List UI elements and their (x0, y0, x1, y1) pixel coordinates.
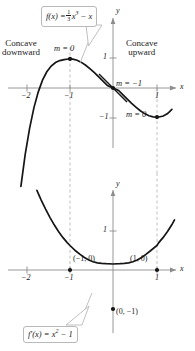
y-axis-arrow-top (111, 18, 116, 24)
callout-fprime-exponent: 2 (55, 328, 58, 334)
callout-fprime-bottom: f′(x) = x2 − 1 (23, 326, 78, 343)
y-axis-label-top: y (116, 7, 120, 15)
x-tick-label-pos1-top: 1 (155, 92, 159, 100)
fraction-denominator: 3 (66, 16, 71, 23)
curve-cubic (21, 59, 172, 186)
x-tick-label-neg2-top: −2 (21, 92, 30, 100)
y-axis-arrow-bottom (111, 190, 116, 196)
callout-fx-fraction: 13 (66, 9, 71, 23)
label-slope-inflection: m = −1 (116, 79, 142, 88)
concave-downward-line2: downward (2, 47, 40, 57)
fraction-numerator: 1 (66, 9, 71, 16)
x-tick-label-neg2-bottom: −2 (21, 274, 30, 282)
point-vertex (111, 307, 115, 311)
label-slope-min: m = 0 (126, 110, 146, 119)
label-point-neg1-0: (−1, 0) (73, 255, 95, 263)
y-axis-label-bottom: y (116, 180, 120, 188)
label-concave-upward: Concave upward (126, 39, 158, 58)
point-local-min (155, 115, 159, 119)
label-concave-downward: Concave downward (2, 39, 40, 58)
label-point-pos1-0: (1, 0) (130, 255, 147, 263)
callout-fx-exponent: 3 (75, 10, 78, 16)
callout-fprime-lhs: f′(x) = x (28, 329, 55, 339)
point-root-pos1 (155, 268, 159, 272)
point-root-neg1 (68, 268, 72, 272)
x-axis-label-bottom: x (180, 265, 184, 273)
x-axis-arrow-bottom (170, 268, 176, 273)
x-tick-label-neg1-bottom: −1 (64, 274, 73, 282)
x-axis-label-top: x (180, 83, 184, 91)
callout-fx-top: f(x) =13x3 − x (41, 6, 97, 27)
y-tick-label-pos1-top: 1 (103, 53, 107, 61)
callout-fx-lhs: f(x) = (46, 11, 66, 21)
calculus-figure: f(x) =13x3 − x y x −2 −1 1 1 −1 Concave … (0, 0, 195, 351)
callout-tail-bottom (66, 306, 89, 325)
concave-upward-line2: upward (128, 47, 155, 57)
x-tick-label-neg1-top: −1 (64, 92, 73, 100)
point-local-max (68, 57, 72, 61)
label-point-0-neg1: (0, −1) (116, 308, 138, 316)
x-axis-arrow-top (170, 86, 176, 91)
y-tick-label-neg1-top: −1 (99, 113, 108, 121)
label-slope-max: m = 0 (54, 44, 74, 53)
callout-tail-top (86, 25, 102, 46)
callout-fx-tail: − x (81, 11, 93, 21)
y-tick-label-pos1-bottom: 1 (103, 226, 107, 234)
x-tick-label-pos1-bottom: 1 (155, 274, 159, 282)
callout-fprime-tail: − 1 (61, 329, 73, 339)
